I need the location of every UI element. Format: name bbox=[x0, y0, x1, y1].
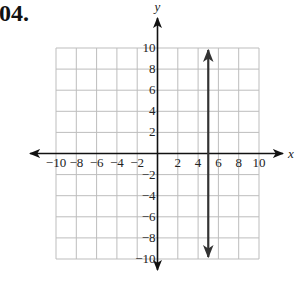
y-tick-label: 6 bbox=[149, 82, 156, 97]
y-tick-label: 4 bbox=[149, 103, 156, 118]
x-tick-label: −4 bbox=[110, 155, 124, 170]
coordinate-plane: −10−8−6−4−2246810108642−2−4−6−8−10 x y bbox=[0, 0, 295, 281]
x-tick-label: −10 bbox=[46, 155, 66, 170]
y-tick-label: −2 bbox=[142, 167, 156, 182]
x-tick-label: 4 bbox=[195, 155, 202, 170]
x-tick-label: 8 bbox=[235, 155, 242, 170]
y-tick-label: −10 bbox=[135, 251, 155, 266]
x-tick-label: −8 bbox=[69, 155, 83, 170]
x-tick-label: 10 bbox=[253, 155, 266, 170]
y-tick-label: 10 bbox=[143, 40, 156, 55]
x-tick-label: 2 bbox=[175, 155, 182, 170]
x-axis-label: x bbox=[287, 146, 294, 161]
y-tick-label: −6 bbox=[142, 209, 156, 224]
y-tick-label: 8 bbox=[149, 61, 156, 76]
y-tick-label: −8 bbox=[142, 230, 156, 245]
x-tick-label: 6 bbox=[215, 155, 222, 170]
x-tick-label: −6 bbox=[90, 155, 104, 170]
y-tick-label: 2 bbox=[149, 124, 156, 139]
axes bbox=[30, 18, 283, 270]
y-axis-label: y bbox=[153, 0, 161, 14]
y-tick-label: −4 bbox=[142, 188, 156, 203]
